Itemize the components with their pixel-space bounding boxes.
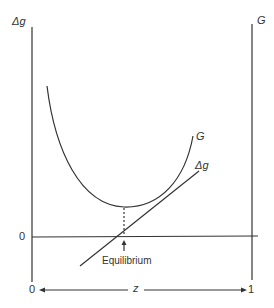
- equilibrium-diagram: Δg G 0 G Δg Equilibrium 0 z 1: [0, 0, 274, 308]
- x-mid-label: z: [133, 283, 139, 294]
- curve-g: [47, 86, 193, 207]
- z-left-arrow-icon: [39, 288, 128, 293]
- equilibrium-label: Equilibrium: [102, 256, 151, 266]
- zero-y-label: 0: [19, 231, 25, 242]
- x-start-label: 0: [29, 284, 35, 295]
- curve-g-label: G: [196, 131, 205, 142]
- equilibrium-arrow-icon: [122, 240, 127, 251]
- x-end-label: 1: [248, 284, 254, 295]
- left-axis-label: Δg: [12, 16, 26, 27]
- z-right-arrow-icon: [144, 288, 247, 293]
- line-delta-g-label: Δg: [195, 160, 209, 171]
- line-delta-g: [80, 171, 199, 266]
- right-axis-label: G: [257, 15, 266, 26]
- zero-line: [32, 236, 258, 237]
